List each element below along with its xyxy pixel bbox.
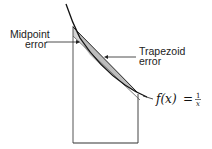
error-diagram: Midpoint error Trapezoid error f(x) = 1 … [0, 0, 212, 149]
formula-leader-line [143, 96, 153, 99]
trapezoid-chord [73, 27, 138, 93]
formula-equals: = [183, 92, 193, 106]
midpoint-tangent-line [73, 36, 140, 100]
trapezoid-label-line2: error [139, 55, 162, 67]
curve-one-over-x [66, 4, 147, 97]
formula-numerator: 1 [196, 92, 200, 100]
formula-label: f(x) = 1 x [155, 92, 201, 108]
formula-lhs: f(x) [155, 92, 177, 106]
midpoint-label-line2: error [25, 38, 48, 50]
formula-denominator: x [196, 100, 200, 108]
